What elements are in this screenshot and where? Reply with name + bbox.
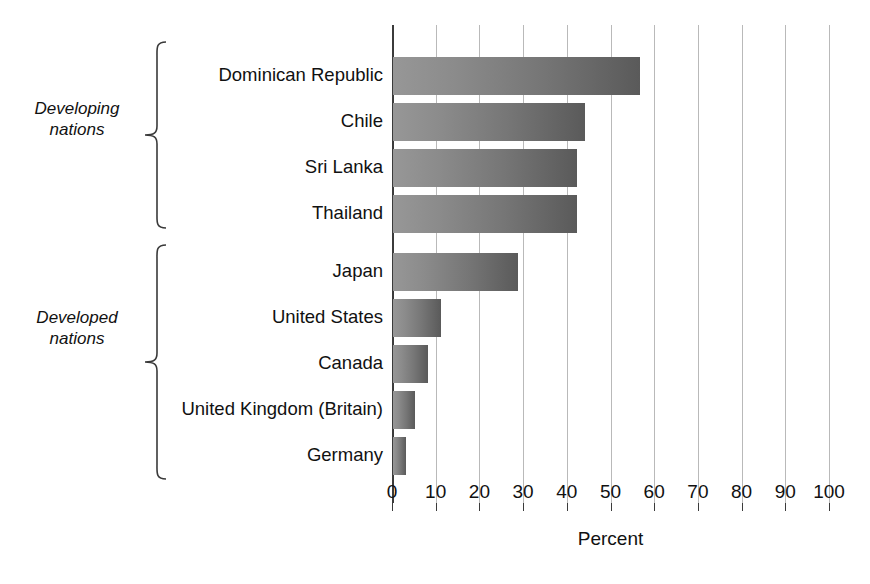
x-axis-title: Percent [392, 528, 829, 550]
x-tick-label-80: 80 [731, 481, 752, 503]
category-label-germany: Germany [100, 444, 383, 466]
x-tick-label-10: 10 [425, 481, 446, 503]
bar-canada [393, 345, 428, 383]
plot-area [392, 25, 829, 503]
category-label-thailand: Thailand [100, 202, 383, 224]
category-label-sri-lanka: Sri Lanka [100, 156, 383, 178]
category-label-united-states: United States [100, 306, 383, 328]
gridline-100 [829, 25, 830, 503]
bar-dominican-republic [393, 57, 640, 95]
category-label-dominican-republic: Dominican Republic [100, 64, 383, 86]
x-tick-label-40: 40 [556, 481, 577, 503]
x-tick-label-20: 20 [469, 481, 490, 503]
gridline-90 [785, 25, 786, 503]
category-label-chile: Chile [100, 110, 383, 132]
x-tick-label-0: 0 [387, 481, 398, 503]
x-tick-label-100: 100 [813, 481, 845, 503]
bar-germany [393, 437, 406, 475]
x-tick-label-30: 30 [513, 481, 534, 503]
bar-chart: Developing nations Developed nations Dom… [0, 0, 870, 584]
gridline-50 [611, 25, 612, 503]
x-tick-100 [829, 503, 830, 511]
x-axis-tick-labels: 0102030405060708090100 [392, 481, 829, 511]
bar-thailand [393, 195, 577, 233]
bar-sri-lanka [393, 149, 577, 187]
category-label-canada: Canada [100, 352, 383, 374]
gridline-80 [742, 25, 743, 503]
bar-japan [393, 253, 518, 291]
gridline-30 [523, 25, 524, 503]
gridline-70 [698, 25, 699, 503]
gridline-60 [654, 25, 655, 503]
x-tick-label-50: 50 [600, 481, 621, 503]
x-tick-label-70: 70 [687, 481, 708, 503]
x-tick-label-60: 60 [644, 481, 665, 503]
category-label-united-kingdom-britain: United Kingdom (Britain) [100, 398, 383, 420]
category-axis-labels: Dominican RepublicChileSri LankaThailand… [100, 0, 383, 584]
bar-united-kingdom-britain [393, 391, 415, 429]
x-tick-label-90: 90 [775, 481, 796, 503]
category-label-japan: Japan [100, 260, 383, 282]
bar-united-states [393, 299, 441, 337]
bar-chile [393, 103, 585, 141]
gridline-40 [567, 25, 568, 503]
